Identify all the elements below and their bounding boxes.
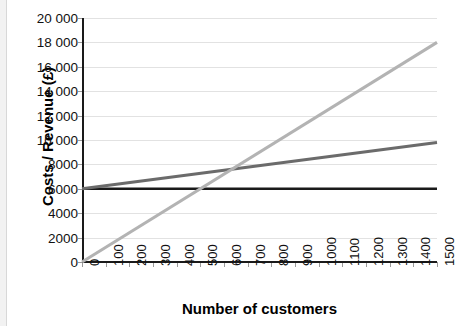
series-line-revenue xyxy=(82,42,437,262)
x-tick-label: 200 xyxy=(134,244,149,266)
x-tick-label: 500 xyxy=(205,244,220,266)
x-tick-label: 1000 xyxy=(324,237,339,266)
y-tick-label: 18 000 xyxy=(24,35,78,50)
x-tick-mark xyxy=(437,262,438,267)
x-tick-label: 1400 xyxy=(418,237,433,266)
y-tick-label: 8000 xyxy=(24,157,78,172)
y-tick-label: 16 000 xyxy=(24,59,78,74)
y-tick-label: 10 000 xyxy=(24,133,78,148)
x-tick-label: 0 xyxy=(87,259,102,266)
x-axis-title: Number of customers xyxy=(82,300,437,317)
x-tick-label: 700 xyxy=(253,244,268,266)
y-tick-label: 20 000 xyxy=(24,11,78,26)
x-tick-label: 800 xyxy=(276,244,291,266)
y-tick-label: 4000 xyxy=(24,206,78,221)
page-edge-strip xyxy=(0,0,7,326)
x-tick-label: 600 xyxy=(229,244,244,266)
series-line-total-costs xyxy=(82,142,437,188)
x-tick-label: 1300 xyxy=(395,237,410,266)
y-axis-tick-labels: 0200040006000800010 00012 00014 00016 00… xyxy=(24,0,78,326)
y-tick-label: 14 000 xyxy=(24,84,78,99)
x-tick-label: 900 xyxy=(300,244,315,266)
x-tick-label: 400 xyxy=(182,244,197,266)
x-tick-label: 300 xyxy=(158,244,173,266)
x-tick-label: 100 xyxy=(111,244,126,266)
x-tick-label: 1500 xyxy=(442,237,457,266)
series-lines xyxy=(82,18,437,262)
y-tick-label: 0 xyxy=(24,255,78,270)
plot-area xyxy=(82,18,437,262)
y-tick-label: 12 000 xyxy=(24,108,78,123)
y-tick-label: 6000 xyxy=(24,181,78,196)
x-tick-label: 1200 xyxy=(371,237,386,266)
x-tick-label: 1100 xyxy=(347,238,362,266)
y-tick-label: 2000 xyxy=(24,230,78,245)
